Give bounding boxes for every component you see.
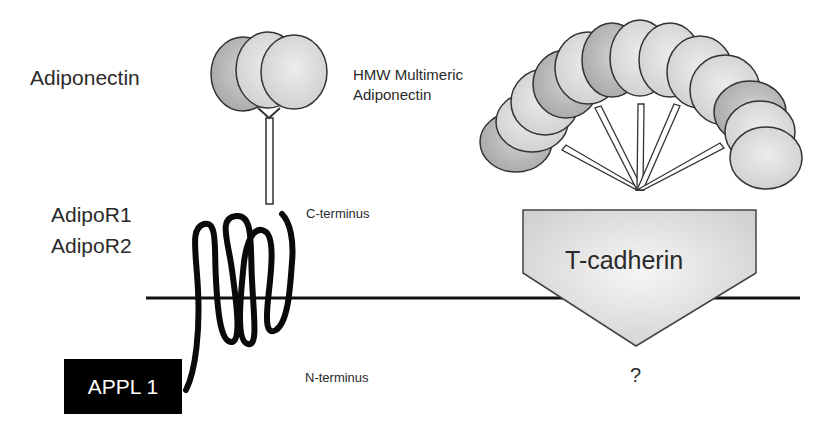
adipor2-label: AdipoR2: [51, 234, 132, 258]
appl1-box: APPL 1: [64, 359, 182, 414]
appl1-label: APPL 1: [88, 375, 158, 399]
adiponectin-trimer: [211, 32, 327, 204]
hmw-adiponectin-label-line1: HMW Multimeric: [353, 66, 463, 83]
t-cadherin-label: T-cadherin: [565, 246, 683, 275]
hmw-adiponectin-multimer: [480, 20, 802, 190]
n-terminus-label: N-terminus: [305, 370, 369, 385]
adipor1-label: AdipoR1: [51, 203, 132, 227]
t-cadherin-shape: [523, 210, 756, 346]
c-terminus-label: C-terminus: [306, 206, 370, 221]
hmw-adiponectin-label-line2: Adiponectin: [353, 86, 431, 103]
adiponectin-label: Adiponectin: [30, 66, 140, 90]
adipor-receptor-coil: [186, 214, 293, 390]
unknown-signaling-mark: ?: [630, 364, 641, 387]
